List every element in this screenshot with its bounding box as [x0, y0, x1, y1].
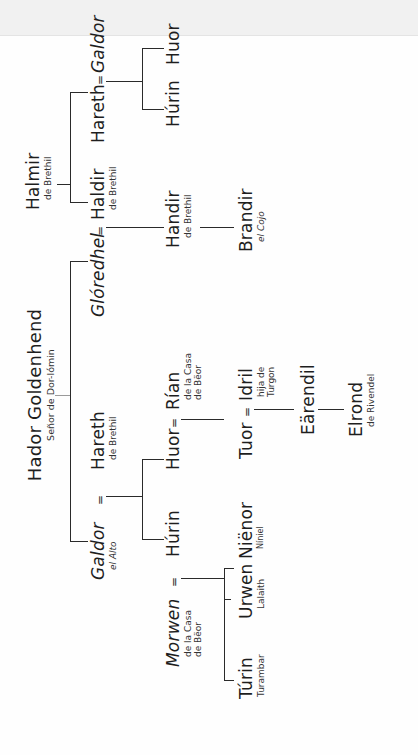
node-rian: Rían de la Casa de Bëor [165, 353, 204, 410]
node-earendil: Eärendil [300, 364, 317, 435]
root-bar [70, 262, 71, 542]
node-haldir: Haldir de Brethil [90, 166, 119, 220]
drop-huor-top [142, 48, 164, 49]
root-drop-gloredhel [70, 261, 88, 262]
drop-urwen [224, 599, 231, 600]
node-huor: Huor [165, 428, 182, 470]
root-drop-galdor [70, 541, 88, 542]
drop-hareth2 [70, 92, 88, 93]
marriage-hareth-galdor: = [94, 75, 106, 85]
node-hurin: Húrin [165, 510, 182, 557]
node-hareth2: Hareth [90, 84, 107, 143]
union-drop-hareth-galdor [106, 81, 142, 82]
node-galdor-alto: Galdor el Alto [90, 522, 119, 580]
node-handir: Handir de Brethil [165, 190, 194, 248]
children-bar-top [142, 49, 143, 110]
node-tuor: Tuor [238, 422, 255, 459]
node-urwen: Urwen Lalaith [238, 563, 267, 619]
marriage-huor-rian: = [168, 418, 180, 428]
node-morwen: Morwen de la Casa de Bëor [165, 599, 204, 667]
family-tree-canvas: Hador Goldenhend Señor de Dor-lómin Gald… [0, 0, 418, 755]
children-bar-hurin [224, 569, 225, 681]
drop-hurin-top [142, 109, 164, 110]
node-huor-top: Huor [165, 23, 182, 65]
drop-elrond [318, 409, 344, 410]
drop-hurin [142, 539, 164, 540]
union-drop-galdor-hareth [106, 496, 142, 497]
root-stem [55, 395, 70, 396]
children-bar-hurin-huor [142, 460, 143, 540]
drop-haldir [70, 202, 88, 203]
union-drop-tuor-idril [254, 409, 294, 410]
drop-turin [224, 680, 234, 681]
node-idril: Idril hija de Turgon [238, 367, 277, 401]
drop-nienor [224, 568, 234, 569]
union-drop-hurin-morwen [181, 578, 224, 579]
marriage-hurin-morwen: = [168, 577, 180, 587]
marriage-galdor-hareth: = [94, 495, 106, 505]
node-turin: Túrin Turambar [238, 654, 267, 699]
node-hador: Hador Goldenhend Señor de Dor-lómin [26, 305, 56, 485]
drop-brandir [200, 227, 234, 228]
union-drop-gloredhel-haldir [106, 227, 164, 228]
node-elrond: Elrond de Rivendel [348, 374, 377, 437]
marriage-gloredhel-haldir: = [94, 226, 106, 236]
drop-huor [142, 459, 164, 460]
node-galdor2: Galdor [90, 15, 107, 73]
marriage-tuor-idril: = [241, 407, 253, 417]
union-drop-huor-rian [181, 419, 224, 420]
node-brandir: Brandir el Cojo [238, 188, 267, 252]
node-nienor: Niënor Níniel [238, 502, 266, 559]
node-gloredhel: Glóredhel [90, 233, 107, 317]
halmir-stem [57, 184, 70, 185]
halmir-bar [70, 93, 71, 203]
node-hareth-brethil: Hareth de Brethil [90, 411, 119, 470]
node-hurin-top: Húrin [165, 80, 182, 127]
node-halmir: Halmir de Brethil [25, 153, 54, 210]
